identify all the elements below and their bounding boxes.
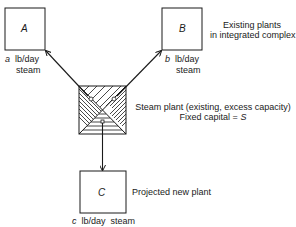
- fixed-capital-var: S: [240, 112, 246, 122]
- plant-b-flow: b lb/day: [165, 54, 199, 64]
- plant-a-flow-unit: lb/day: [15, 54, 39, 64]
- fixed-capital-label: Fixed capital =: [180, 112, 241, 122]
- plant-c-flow-unit: lb/day steam: [82, 216, 136, 226]
- plant-a-flow: a lb/day: [5, 54, 39, 64]
- plant-b-flow-unit2: steam: [176, 65, 201, 75]
- plant-c-flow: c lb/day steam: [72, 216, 135, 226]
- existing-plants-line1: Existing plants: [210, 20, 294, 30]
- plant-a-flow-var: a: [5, 54, 10, 64]
- steam-plant-caption: Steam plant (existing, excess capacity) …: [130, 102, 296, 122]
- plant-c-flow-var: c: [72, 216, 77, 226]
- existing-plants-caption: Existing plants in integrated complex: [210, 20, 294, 40]
- existing-plants-line2: in integrated complex: [210, 30, 294, 40]
- steam-plant-line1: Steam plant (existing, excess capacity): [130, 102, 296, 112]
- plant-b-label: B: [179, 23, 186, 34]
- plant-a-label: A: [21, 23, 28, 34]
- plant-c-description: Projected new plant: [132, 187, 211, 197]
- arrow-to-b: [117, 51, 161, 96]
- plant-b-flow-unit: lb/day: [175, 54, 199, 64]
- plant-a-flow-unit2: steam: [16, 65, 41, 75]
- plant-b-flow-var: b: [165, 54, 170, 64]
- arrow-to-a: [46, 51, 88, 96]
- plant-c-label: C: [98, 187, 105, 198]
- steam-plant-line2: Fixed capital = S: [130, 112, 296, 122]
